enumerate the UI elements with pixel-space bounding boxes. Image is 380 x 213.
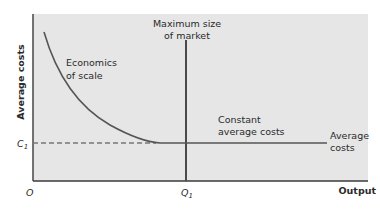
- cost-chart: Average costs Maximum size of market Eco…: [0, 0, 380, 213]
- econ-label-2: of scale: [66, 70, 103, 81]
- origin-label: O: [26, 187, 34, 198]
- avg-cost-label-2: costs: [330, 142, 355, 153]
- constant-label-1: Constant: [218, 114, 261, 125]
- econ-label-1: Economics: [66, 57, 117, 68]
- avg-cost-label-1: Average: [330, 130, 369, 141]
- c1-tick-label: C1: [17, 138, 28, 151]
- constant-label-2: average costs: [218, 126, 285, 137]
- x-axis-label: Output: [339, 185, 377, 196]
- q1-tick-label: Q1: [181, 187, 193, 200]
- y-axis-label: Average costs: [15, 44, 26, 120]
- max-market-label-2: of market: [164, 30, 210, 41]
- max-market-label-1: Maximum size: [153, 18, 221, 29]
